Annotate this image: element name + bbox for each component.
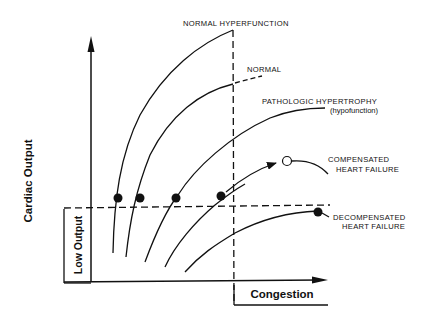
curve-normal: NORMAL (126, 65, 281, 257)
label-normal: NORMAL (247, 65, 281, 74)
open-point-icon (283, 157, 292, 166)
x-axis (64, 277, 328, 284)
x-axis-label: Congestion (250, 288, 313, 300)
filled-point-icon (114, 194, 123, 203)
x-axis-arrow-icon (312, 277, 328, 284)
y-axis-arrow-icon (88, 36, 95, 52)
y-axis (88, 36, 95, 282)
label-compensated-heart-failure: HEART FAILURE (336, 165, 399, 174)
filled-point-icon (136, 194, 145, 203)
low-output-label: Low Output (72, 215, 84, 274)
label-normal-hyperfunction: NORMAL HYPERFUNCTION (183, 19, 289, 28)
filled-point-icon (217, 192, 226, 201)
curve-pathologic-hypertrophy: PATHOLOGIC HYPERTROPHY (hypofunction) (145, 97, 379, 262)
filled-point-icon (172, 194, 181, 203)
y-axis-label: Cardiac Output (22, 139, 34, 222)
curve-compensated-heart-failure: COMPENSATED HEART FAILURE (165, 155, 399, 267)
label-decompensated-heart-failure: HEART FAILURE (342, 222, 405, 231)
low-output-threshold-line (64, 205, 330, 208)
curve-decompensated-heart-failure: DECOMPENSATED HEART FAILURE (185, 208, 406, 273)
label-hypofunction: (hypofunction) (330, 106, 379, 115)
congestion-threshold-line (233, 30, 234, 305)
low-output-box: Low Output (64, 209, 91, 283)
label-pathologic-hypertrophy: PATHOLOGIC HYPERTROPHY (262, 97, 377, 106)
congestion-box: Congestion (234, 285, 328, 305)
filled-point-icon (314, 208, 323, 217)
cardiac-output-congestion-diagram: Cardiac Output Low Output Congestion NOR… (0, 0, 432, 322)
label-decompensated: DECOMPENSATED (333, 213, 406, 222)
label-compensated: COMPENSATED (328, 155, 390, 164)
